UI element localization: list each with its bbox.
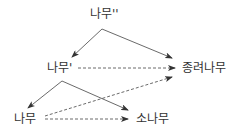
node-jongryeo-namu: 종려나무 <box>182 61 226 75</box>
node-sonamu: 소나무 <box>136 112 169 126</box>
node-namu-prime: 나무' <box>47 61 72 75</box>
edge-namu1-namu <box>28 81 62 108</box>
edge-namu-jongryeo <box>45 77 172 116</box>
node-namu: 나무 <box>14 112 36 126</box>
edge-namu2-jongryeo <box>102 29 172 58</box>
edge-namu2-namu1 <box>72 29 102 57</box>
edge-namu1-sonamu <box>62 81 128 110</box>
node-namu-double-prime: 나무'' <box>90 7 119 21</box>
